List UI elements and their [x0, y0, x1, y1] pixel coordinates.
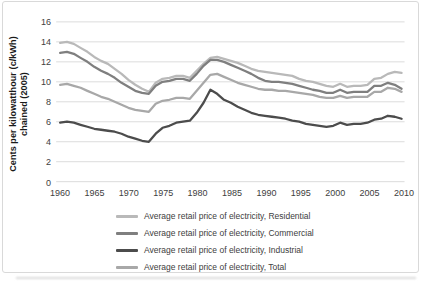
- y-tick-label: 10: [29, 77, 51, 88]
- legend-label: Average retail price of electricity, Res…: [144, 211, 310, 221]
- x-tick-label: 2005: [353, 188, 387, 198]
- x-tick-label: 1980: [181, 188, 215, 198]
- x-tick-label: 2010: [387, 188, 421, 198]
- x-tick-label: 1960: [43, 188, 77, 198]
- legend-label: Average retail price of electricity, Com…: [144, 228, 314, 238]
- legend-line-swatch: [116, 215, 138, 218]
- legend-item: Average retail price of electricity, Com…: [116, 226, 314, 240]
- y-tick-label: 12: [29, 57, 51, 68]
- y-tick-label: 0: [29, 178, 51, 189]
- x-tick-label: 2000: [318, 188, 352, 198]
- x-tick-label: 1970: [112, 188, 146, 198]
- series-line-1: [60, 52, 401, 94]
- y-axis-title-line1: Cents per kilowatthour (c/kWh): [8, 18, 19, 190]
- legend-item: Average retail price of electricity, Tot…: [116, 260, 286, 274]
- series-line-0: [60, 42, 401, 92]
- x-tick-label: 1985: [215, 188, 249, 198]
- legend-line-swatch: [116, 266, 138, 269]
- legend-label: Average retail price of electricity, Ind…: [144, 245, 303, 255]
- legend-label: Average retail price of electricity, Tot…: [144, 262, 286, 272]
- legend-line-swatch: [116, 249, 138, 252]
- legend-item: Average retail price of electricity, Ind…: [116, 243, 303, 257]
- y-tick-label: 6: [29, 117, 51, 128]
- y-tick-label: 2: [29, 157, 51, 168]
- y-tick-label: 16: [29, 17, 51, 28]
- y-tick-label: 4: [29, 137, 51, 148]
- x-tick-label: 1990: [249, 188, 283, 198]
- x-tick-label: 1965: [77, 188, 111, 198]
- legend-line-swatch: [116, 232, 138, 235]
- y-tick-label: 14: [29, 37, 51, 48]
- y-tick-label: 8: [29, 97, 51, 108]
- chart-container: Cents per kilowatthour (c/kWh) chained (…: [2, 1, 419, 273]
- page-edge-artifact: [16, 277, 416, 279]
- x-tick-label: 1995: [284, 188, 318, 198]
- x-tick-label: 1975: [146, 188, 180, 198]
- legend-item: Average retail price of electricity, Res…: [116, 209, 310, 223]
